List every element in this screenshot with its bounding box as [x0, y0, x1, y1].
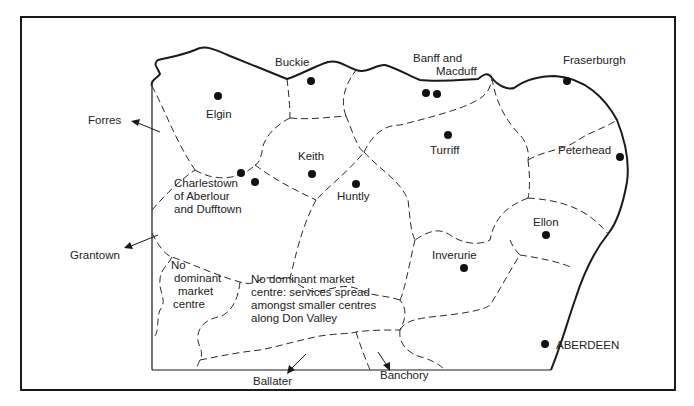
label-ballater: Ballater [253, 375, 292, 389]
label-don-valley-line2: centre: services spread [251, 286, 370, 300]
town-dot-banff [422, 89, 430, 97]
label-no-dominant-line2: dominant [174, 272, 221, 286]
town-dot-inverurie [460, 264, 468, 272]
label-don-valley-line3: amongst smaller centres [251, 299, 376, 313]
label-no-dominant-line4: centre [173, 298, 205, 312]
label-charlestown-line1: Charlestown [174, 177, 238, 191]
label-ellon: Ellon [533, 216, 559, 230]
town-dot-turriff [444, 131, 452, 139]
label-aberdeen: ABERDEEN [556, 339, 619, 353]
town-dot-aberdeen [541, 340, 549, 348]
label-charlestown-line2: of Aberlour [174, 190, 230, 204]
town-dot-peterhead [616, 153, 624, 161]
arrow-forres-icon [131, 119, 140, 126]
label-grantown: Grantown [70, 249, 120, 263]
label-banff-line2: Macduff [436, 65, 477, 79]
label-elgin: Elgin [206, 108, 232, 122]
label-no-dominant-line3: market [178, 285, 213, 299]
town-dot-elgin [214, 92, 222, 100]
town-dot-keith [308, 170, 316, 178]
label-banff-line1: Banff and [413, 52, 462, 66]
label-forres: Forres [88, 114, 121, 128]
label-don-valley-line1: No dominant market [251, 273, 355, 287]
town-dot-huntly [352, 180, 360, 188]
label-keith: Keith [298, 150, 324, 164]
town-dot-dufftown [251, 178, 259, 186]
label-no-dominant-line1: No [171, 259, 186, 273]
label-peterhead: Peterhead [558, 144, 611, 158]
town-dot-buckie [307, 77, 315, 85]
label-buckie: Buckie [275, 56, 310, 70]
label-don-valley-line4: along Don Valley [251, 312, 337, 326]
external-arrows [124, 119, 390, 374]
label-banchory: Banchory [380, 369, 429, 383]
label-inverurie: Inverurie [432, 249, 477, 263]
label-fraserburgh: Fraserburgh [563, 54, 626, 68]
town-dot-ellon [542, 231, 550, 239]
town-dot-charlestown [237, 169, 245, 177]
label-charlestown-line3: and Dufftown [174, 203, 242, 217]
town-dot-fraserburgh [563, 77, 571, 85]
label-huntly: Huntly [337, 190, 370, 204]
label-turriff: Turriff [430, 144, 459, 158]
town-dot-macduff [433, 90, 441, 98]
